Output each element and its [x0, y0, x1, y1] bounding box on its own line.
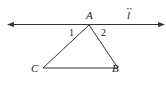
geometry-diagram: A B C 1 2 l ↔: [0, 0, 166, 86]
line-arrow-symbol-icon: ↔: [125, 3, 133, 12]
line-l: [7, 22, 165, 27]
angle-label-2: 2: [101, 27, 106, 38]
angle-label-1: 1: [69, 27, 74, 38]
triangle-abc: [43, 25, 118, 68]
vertex-label-b: B: [112, 62, 119, 74]
vertex-label-c: C: [31, 62, 39, 74]
arrow-left-icon: [7, 22, 14, 27]
arrow-right-icon: [158, 22, 165, 27]
vertex-label-a: A: [85, 9, 93, 21]
